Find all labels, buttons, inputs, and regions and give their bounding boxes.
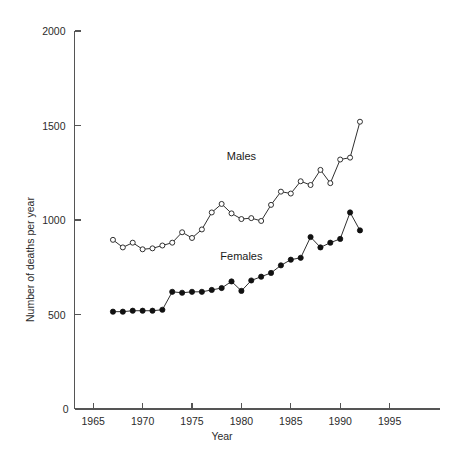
data-point-males [259,218,264,223]
x-axis-ticks: 1965197019751980198519901995 [82,403,402,427]
data-point-males [170,240,175,245]
data-point-females [209,287,214,292]
series-line-males [113,122,360,250]
data-series-layer [110,119,362,314]
data-point-females [150,308,155,313]
x-tick-label: 1995 [378,415,402,427]
y-tick-label: 1000 [42,214,66,226]
data-point-males [338,157,343,162]
data-point-males [288,191,293,196]
data-point-females [199,289,204,294]
series-annotations: MalesFemales [220,150,263,262]
data-point-males [239,217,244,222]
series-label-females: Females [220,250,263,262]
data-point-females [249,278,254,283]
data-point-males [160,243,165,248]
data-point-males [249,216,254,221]
data-point-females [229,279,234,284]
series-label-males: Males [227,150,257,162]
x-tick-label: 1975 [180,415,204,427]
data-point-males [229,211,234,216]
y-tick-label: 1500 [42,120,66,132]
data-point-females [219,285,224,290]
x-tick-label: 1965 [82,415,106,427]
data-point-males [130,240,135,245]
data-point-males [180,230,185,235]
data-point-females [298,255,303,260]
x-axis-title: Year [211,430,233,442]
data-point-males [318,167,323,172]
data-point-males [190,235,195,240]
data-point-males [328,181,333,186]
y-axis-title: Number of deaths per year [24,197,36,322]
data-point-males [150,246,155,251]
data-point-females [347,210,352,215]
data-point-females [130,308,135,313]
data-point-females [278,263,283,268]
data-point-males [209,210,214,215]
data-point-males [140,247,145,252]
data-point-females [318,245,323,250]
data-point-males [308,183,313,188]
data-point-females [357,228,362,233]
y-tick-label: 2000 [42,25,66,37]
data-point-females [160,307,165,312]
data-point-females [170,289,175,294]
data-point-females [189,289,194,294]
data-point-females [239,288,244,293]
data-point-females [110,309,115,314]
data-point-males [199,227,204,232]
x-tick-label: 1980 [230,415,254,427]
data-point-females [259,274,264,279]
data-point-males [357,119,362,124]
data-point-males [120,245,125,250]
chart-container: 0500100015002000 19651970197519801985199… [0,0,458,464]
data-point-females [268,270,273,275]
x-tick-label: 1990 [329,415,353,427]
x-tick-label: 1985 [279,415,303,427]
data-point-females [120,309,125,314]
data-point-females [140,308,145,313]
data-point-females [308,234,313,239]
y-tick-label: 500 [48,309,66,321]
data-point-males [348,155,353,160]
y-tick-label: 0 [63,403,69,415]
data-point-females [180,290,185,295]
data-point-males [219,201,224,206]
data-point-males [278,189,283,194]
data-point-males [269,202,274,207]
line-chart: 0500100015002000 19651970197519801985199… [0,0,458,464]
data-point-females [338,236,343,241]
data-point-females [288,257,293,262]
data-point-males [110,237,115,242]
data-point-females [328,240,333,245]
series-line-females [113,212,360,311]
x-tick-label: 1970 [131,415,155,427]
data-point-males [298,179,303,184]
